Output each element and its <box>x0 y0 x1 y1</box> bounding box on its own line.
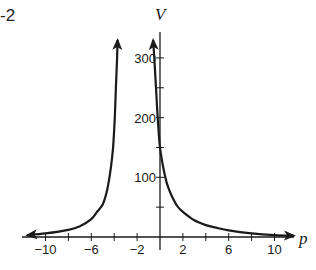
curve-right-branch <box>153 40 294 236</box>
curve-left-branch <box>27 40 117 235</box>
x-tick-label: 6 <box>225 242 232 257</box>
tick-labels: −10−6−22610100200300 <box>34 51 281 257</box>
chart: −10−6−22610100200300 p V <box>0 0 316 270</box>
x-tick-label: 10 <box>267 242 281 257</box>
x-axis-label: p <box>298 229 308 248</box>
y-tick-label: 300 <box>134 51 156 66</box>
x-tick-label: −6 <box>84 242 99 257</box>
x-tick-label: 2 <box>179 242 186 257</box>
y-tick-label: 200 <box>134 111 156 126</box>
x-tick-label: −10 <box>34 242 56 257</box>
y-tick-label: 100 <box>134 170 156 185</box>
y-axis-label: V <box>155 5 168 24</box>
x-tick-label: −2 <box>130 242 145 257</box>
axes <box>22 32 294 250</box>
